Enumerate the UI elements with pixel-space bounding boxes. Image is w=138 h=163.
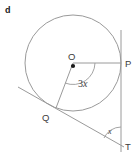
- angle-center-variable: x: [82, 78, 88, 89]
- label-point-t: T: [125, 141, 131, 152]
- label-point-p: P: [125, 58, 131, 69]
- radius-oq-line: [56, 63, 73, 108]
- center-dot: [71, 64, 75, 68]
- angle-arc-t: [104, 127, 121, 138]
- label-angle-center: 3x: [78, 78, 88, 89]
- geometry-diagram: d O P Q T 3x x: [0, 0, 138, 163]
- label-point-q: Q: [42, 112, 49, 123]
- geometry-figure: d O P Q T 3x x: [0, 0, 138, 163]
- label-angle-t: x: [107, 127, 112, 136]
- part-label: d: [5, 5, 11, 15]
- label-point-o: O: [68, 51, 75, 62]
